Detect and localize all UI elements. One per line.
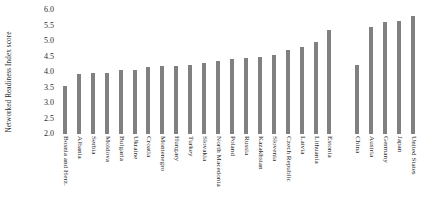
x-tick-label: Austria [368,136,376,157]
bar [314,42,318,134]
bar [244,58,248,134]
x-label-slot: Bosnia and Herz. [58,134,72,218]
bar [91,73,95,134]
bar-slot [155,10,169,134]
bar [397,21,401,134]
bar-slot [406,10,420,134]
bar-slot [72,10,86,134]
x-label-slot: Austria [364,134,378,218]
x-tick-label: Lithuania [312,136,320,164]
x-label-slot [336,134,350,218]
bar-slot [239,10,253,134]
bar-slot [128,10,142,134]
x-label-slot: Serbia [86,134,100,218]
x-label-slot: Estonia [323,134,337,218]
x-label-slot: Hungary [169,134,183,218]
plot-area [58,10,420,134]
x-label-slot: Germany [378,134,392,218]
y-axis-tick-labels: 6.05.55.04.54.03.53.02.52.0 [28,6,54,138]
x-tick-label: Hungary [173,136,181,161]
bar [272,55,276,134]
bar-slot [378,10,392,134]
x-tick-label: Japan [395,136,403,152]
bar-slot [253,10,267,134]
y-axis-title: Networked Readiness Index score [2,14,16,150]
bar-slot [350,10,364,134]
x-axis-tick-labels: Bosnia and Herz.AlbaniaSerbiaMoldovaBulg… [58,134,420,218]
bar [286,50,290,134]
x-label-slot: Japan [392,134,406,218]
x-tick-label: Serbia [89,136,97,154]
x-label-slot: Bulgaria [114,134,128,218]
x-label-slot: Croatia [142,134,156,218]
x-tick-label: Slovakia [200,136,208,161]
x-tick-label: Croatia [145,136,153,157]
bar-slot [114,10,128,134]
x-label-slot: Slovakia [197,134,211,218]
x-label-slot: China [350,134,364,218]
x-tick-label: Turkey [187,136,195,157]
bar-slot [281,10,295,134]
bar-slot [392,10,406,134]
bar-slot [86,10,100,134]
bar-slot [142,10,156,134]
x-tick-label: Montenegro [159,136,167,171]
bar-slot [183,10,197,134]
networked-readiness-index-bar-chart: Networked Readiness Index score 6.05.55.… [0,0,424,218]
x-tick-label: Slovenia [270,136,278,161]
bar-slot [309,10,323,134]
bar-slot [197,10,211,134]
y-tick-label: 5.0 [28,37,54,45]
bar [105,73,109,134]
bar [63,86,67,134]
y-tick-label: 3.0 [28,99,54,107]
x-tick-label: Poland [228,136,236,156]
x-tick-label: Latvia [298,136,306,154]
x-tick-label: Bulgaria [117,136,125,161]
y-tick-label: 5.5 [28,22,54,30]
bar [202,63,206,134]
bar [160,66,164,134]
x-label-slot: Latvia [295,134,309,218]
bar-slot [58,10,72,134]
bar [369,27,373,134]
bar [411,16,415,134]
bar [77,74,81,134]
x-tick-label: Germany [381,136,389,163]
x-tick-label: China [354,136,362,153]
x-tick-label: Kazakhstan [256,136,264,170]
bar [133,70,137,134]
x-tick-label: Ukraine [131,136,139,159]
bar [188,65,192,134]
x-label-slot: Poland [225,134,239,218]
bar [174,66,178,134]
bar-slot [323,10,337,134]
bar [258,57,262,135]
x-tick-label: Russia [242,136,250,155]
x-label-slot: Albania [72,134,86,218]
x-tick-label: United States [409,136,417,175]
bar-slot [295,10,309,134]
x-tick-label: Estonia [326,136,334,158]
x-label-slot: Moldova [100,134,114,218]
x-label-slot: Turkey [183,134,197,218]
bar [119,70,123,134]
bar-slot [169,10,183,134]
bar [230,59,234,134]
bar [216,61,220,134]
bar-slot [211,10,225,134]
bar [300,47,304,134]
x-label-slot: Kazakhstan [253,134,267,218]
x-label-slot: Russia [239,134,253,218]
y-tick-label: 4.5 [28,53,54,61]
bar-slot [100,10,114,134]
bar-slot [364,10,378,134]
bar-gap [336,10,350,134]
y-tick-label: 6.0 [28,6,54,14]
bar-slot [225,10,239,134]
bar [383,22,387,134]
x-tick-label: Czech Republic [284,136,292,182]
x-label-slot: Czech Republic [281,134,295,218]
x-tick-label: Albania [75,136,83,159]
bar [327,30,331,134]
